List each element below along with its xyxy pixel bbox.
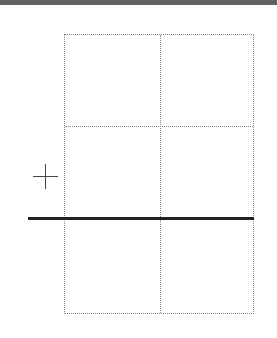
- plus-icon-vertical-stroke: [45, 164, 46, 189]
- grid-column-divider: [160, 35, 161, 313]
- grid-row-divider: [65, 126, 253, 127]
- grid: [64, 34, 254, 314]
- top-bar: [0, 0, 277, 5]
- baseline: [28, 217, 254, 220]
